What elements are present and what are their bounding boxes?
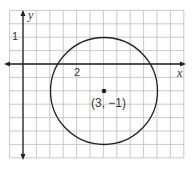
y-axis-down-arrow-icon bbox=[21, 154, 26, 160]
center-point bbox=[102, 89, 107, 94]
y-tick-label: 1 bbox=[12, 30, 18, 42]
y-axis-up-arrow-icon bbox=[21, 10, 26, 16]
center-label: (3, −1) bbox=[91, 96, 126, 110]
x-axis-left-arrow-icon bbox=[4, 62, 10, 67]
y-axis-label: y bbox=[28, 8, 33, 23]
x-axis-label: x bbox=[177, 66, 182, 81]
coordinate-plane bbox=[0, 0, 193, 172]
x-tick-label: 2 bbox=[74, 66, 80, 78]
